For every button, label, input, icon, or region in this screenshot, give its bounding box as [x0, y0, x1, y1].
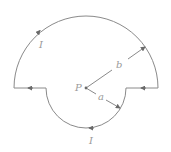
label-radius-a: a [98, 91, 104, 102]
radius-a-line-2 [106, 100, 120, 108]
label-center-p: P [74, 82, 82, 93]
radius-b-line-1 [86, 70, 112, 88]
label-current-top: I [38, 39, 44, 50]
outer-arc [14, 16, 158, 88]
center-point [85, 87, 88, 90]
label-radius-b: b [116, 59, 122, 70]
radius-a-line-1 [86, 88, 96, 94]
label-current-bottom: I [88, 135, 94, 146]
inner-arc [46, 88, 126, 128]
current-loop-diagram: P b a I I [0, 0, 171, 152]
radius-b-line-2 [128, 47, 145, 59]
